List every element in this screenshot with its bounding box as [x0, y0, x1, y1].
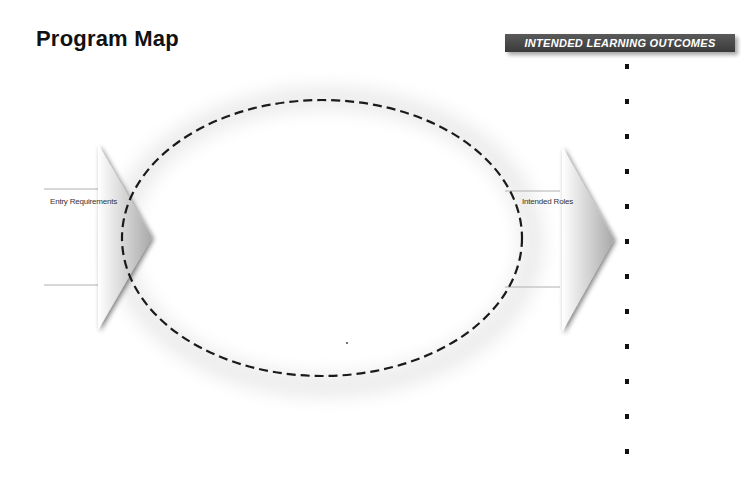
- outcome-bullet: [625, 204, 629, 209]
- ellipse-halo: [120, 98, 532, 386]
- outcome-bullet: [625, 134, 629, 139]
- outcome-bullet: [625, 379, 629, 384]
- outcome-bullet: [625, 309, 629, 314]
- outcome-bullet: [625, 64, 629, 69]
- outcome-bullet: [625, 414, 629, 419]
- outcome-bullet: [625, 449, 629, 454]
- outcome-bullet: [625, 344, 629, 349]
- program-map-diagram: [0, 0, 741, 484]
- outcome-bullet: [625, 169, 629, 174]
- entry-requirements-label: Entry Requirements: [50, 197, 117, 206]
- intended-roles-label: Intended Roles: [522, 197, 573, 206]
- stray-dot: [346, 342, 348, 344]
- outcome-bullet: [625, 99, 629, 104]
- outcome-bullet: [625, 239, 629, 244]
- roles-arrow-shape: [562, 146, 614, 332]
- outcome-bullet: [625, 274, 629, 279]
